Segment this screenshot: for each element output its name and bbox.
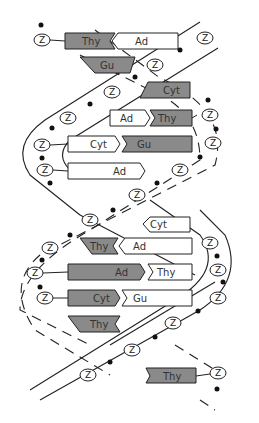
connector — [192, 115, 197, 118]
base-ad-4 — [119, 238, 192, 254]
z-label: Z — [32, 268, 38, 278]
z-label: Z — [215, 368, 221, 378]
phosphate-dot — [40, 258, 45, 263]
label-thy: Thy — [81, 36, 100, 47]
connector — [196, 374, 210, 376]
z-label: Z — [39, 35, 45, 45]
phosphate-dot — [108, 360, 113, 365]
connector — [53, 170, 68, 171]
label-thy: Thy — [156, 267, 175, 278]
phosphate-dot — [50, 126, 55, 131]
label-gu: Gu — [100, 60, 114, 71]
z-label: Z — [207, 238, 213, 248]
z-label: Z — [42, 293, 48, 303]
label-thy: Thy — [89, 319, 108, 330]
base-gu-2 — [122, 136, 192, 152]
label-gu: Gu — [133, 293, 147, 304]
label-ad: Ad — [120, 113, 133, 124]
phosphate-dot — [88, 102, 93, 107]
z-label: Z — [42, 165, 48, 175]
z-label: Z — [202, 33, 208, 43]
phosphate-dot — [38, 285, 43, 290]
z-label: Z — [85, 370, 91, 380]
phosphate-dot — [215, 387, 220, 392]
label-ad: Ad — [135, 36, 148, 47]
base-ad-5 — [68, 264, 145, 280]
z-label: Z — [47, 243, 53, 253]
z-label: Z — [87, 215, 93, 225]
label-ad: Ad — [133, 241, 146, 252]
label-ad: Ad — [113, 166, 126, 177]
z-label: Z — [177, 165, 183, 175]
label-thy: Thy — [162, 371, 181, 382]
connector — [43, 272, 68, 273]
phosphate-dot — [133, 75, 138, 80]
phosphate-dot — [111, 208, 116, 213]
z-label: Z — [134, 190, 140, 200]
phosphate-dot — [39, 23, 44, 28]
phosphate-dot — [198, 155, 203, 160]
helix-svg: Thy Ad Gu Cyt Ad Thy Cyt Gu Ad Cyt Thy A… — [0, 0, 259, 423]
label-cyt: Cyt — [93, 293, 110, 304]
phosphate-dot — [48, 181, 53, 186]
label-cyt: Cyt — [163, 85, 180, 96]
phosphate-dot — [214, 127, 219, 132]
z-label: Z — [109, 87, 115, 97]
z-label: Z — [207, 110, 213, 120]
label-cyt: Cyt — [150, 219, 167, 230]
label-cyt: Cyt — [90, 139, 107, 150]
phosphate-dot — [178, 48, 183, 53]
dna-helix-diagram: Thy Ad Gu Cyt Ad Thy Cyt Gu Ad Cyt Thy A… — [0, 0, 259, 423]
phosphate-dot — [196, 309, 201, 314]
phosphate-dot — [153, 335, 158, 340]
phosphate-dot — [40, 156, 45, 161]
label-thy: Thy — [157, 113, 176, 124]
z-label: Z — [39, 140, 45, 150]
z-label: Z — [215, 293, 221, 303]
connector — [50, 40, 65, 41]
label-gu: Gu — [137, 139, 151, 150]
phosphate-dot — [221, 280, 226, 285]
label-thy: Thy — [89, 241, 108, 252]
z-label: Z — [170, 318, 176, 328]
z-label: Z — [129, 345, 135, 355]
phosphate-dot — [215, 254, 220, 259]
base-ad-3 — [68, 163, 145, 179]
z-label: Z — [65, 113, 71, 123]
phosphate-dot — [155, 181, 160, 186]
phosphate-dot — [206, 98, 211, 103]
phosphate-dot — [68, 233, 73, 238]
z-label: Z — [210, 138, 216, 148]
label-ad: Ad — [115, 267, 128, 278]
z-label: Z — [215, 265, 221, 275]
z-label: Z — [152, 60, 158, 70]
